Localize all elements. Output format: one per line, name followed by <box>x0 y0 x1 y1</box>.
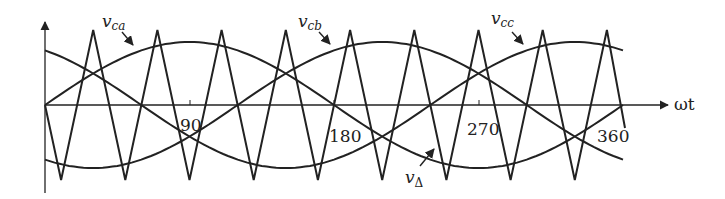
v-cb-pointer <box>319 32 330 44</box>
tick-label-180: 180 <box>329 126 361 146</box>
tick-label-270: 270 <box>467 119 499 139</box>
v-ca-label: vca <box>102 11 125 33</box>
v-ca-pointer <box>122 32 133 45</box>
tick-label-90: 90 <box>180 115 202 135</box>
pwm-waveform-diagram: vca vcb vcc vΔ ωt 90 180 270 360 <box>0 0 725 199</box>
v-cc-pointer <box>512 32 523 44</box>
x-axis-label: ωt <box>674 94 695 114</box>
tick-label-360: 360 <box>597 126 629 146</box>
v-cb-label: vcb <box>298 11 322 33</box>
v-delta-label: vΔ <box>405 167 424 190</box>
v-cc-label: vcc <box>491 8 514 30</box>
